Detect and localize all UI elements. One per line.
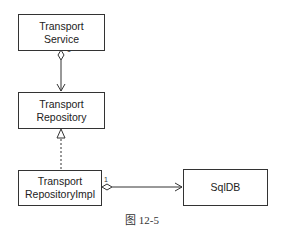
node-label: Transport	[25, 175, 95, 188]
node-label: SqlDB	[211, 181, 241, 194]
multiplicity-label: 1	[104, 176, 108, 183]
node-label: Service	[39, 33, 84, 46]
node-label: RepositoryImpl	[25, 188, 95, 201]
node-label: Repository	[36, 111, 86, 124]
node-transport-repository: TransportRepository	[18, 92, 105, 129]
node-transport-service: TransportService	[18, 14, 105, 51]
node-label: Transport	[39, 20, 84, 33]
figure-caption: 图 12-5	[0, 211, 284, 227]
node-label: Transport	[36, 98, 86, 111]
node-transport-repository-impl: TransportRepositoryImpl	[18, 170, 102, 206]
node-sqldb: SqlDB	[183, 169, 268, 206]
